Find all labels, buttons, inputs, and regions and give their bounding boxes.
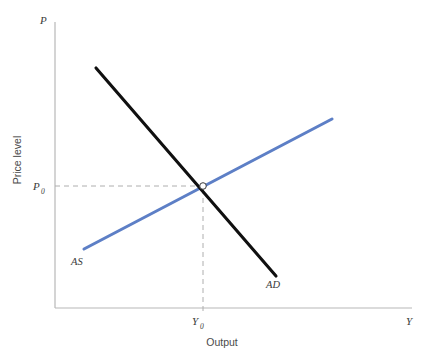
ad-as-chart: P Price level P 0 Y 0 Y Output AS AD bbox=[0, 0, 430, 362]
y-tick-p0-label: P bbox=[32, 180, 40, 192]
x-tick-y0-label: Y bbox=[192, 315, 200, 327]
as-curve-line[interactable] bbox=[84, 119, 332, 249]
y-axis-title-label: Price level bbox=[11, 136, 23, 184]
ad-curve-label: AD bbox=[265, 279, 280, 290]
y-axis-symbol-label: P bbox=[39, 14, 47, 26]
equilibrium-point-marker[interactable] bbox=[200, 183, 207, 190]
chart-canvas: P Price level P 0 Y 0 Y Output AS AD bbox=[0, 0, 430, 362]
x-axis-symbol-label: Y bbox=[406, 315, 414, 327]
x-tick-y0-subscript: 0 bbox=[200, 322, 204, 331]
as-curve-label: AS bbox=[70, 256, 83, 267]
y-tick-p0-subscript: 0 bbox=[41, 187, 45, 196]
ad-curve-line[interactable] bbox=[96, 68, 276, 276]
x-axis-title-label: Output bbox=[206, 336, 238, 348]
